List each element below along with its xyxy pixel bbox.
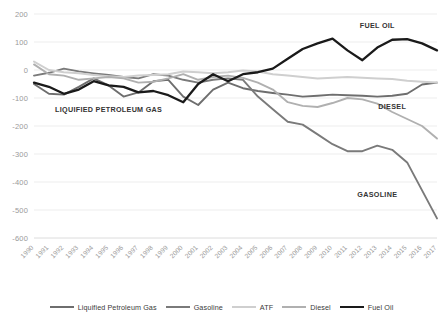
y-tick-label: -400 [12, 178, 28, 187]
legend-label: Diesel [310, 303, 331, 312]
y-tick-label: -100 [12, 94, 28, 103]
legend-color-swatch [282, 306, 306, 308]
legend-item-gasoline[interactable]: Gasoline [166, 303, 223, 312]
x-tick-label: 2007 [273, 244, 289, 260]
y-tick-label: 0 [24, 66, 28, 75]
legend-item-liquified-petroleum-gas[interactable]: Liquified Petroleum Gas [50, 303, 157, 312]
x-tick-label: 1991 [34, 244, 50, 260]
x-tick-label: 2003 [213, 244, 229, 260]
legend-item-atf[interactable]: ATF [232, 303, 273, 312]
x-tick-label: 1999 [153, 244, 169, 260]
x-tick-label: 2014 [377, 244, 393, 260]
x-tick-label: 2011 [333, 244, 348, 259]
x-tick-label: 2010 [318, 244, 334, 260]
x-tick-label: 2000 [168, 244, 184, 260]
x-tick-label: 1996 [109, 244, 125, 260]
legend-color-swatch [166, 306, 190, 308]
legend-label: Fuel Oil [368, 303, 394, 312]
y-tick-label: -500 [12, 206, 28, 215]
annotation-gasoline: GASOLINE [357, 190, 397, 199]
x-tick-label: 2016 [407, 244, 423, 260]
x-tick-label: 2009 [303, 244, 319, 260]
line-chart: 2001000-100-200-300-400-500-600 19901991… [0, 0, 443, 323]
x-tick-label: 1993 [64, 244, 80, 260]
legend-item-diesel[interactable]: Diesel [282, 303, 331, 312]
legend-label: ATF [260, 303, 273, 312]
x-tick-label: 2005 [243, 244, 259, 260]
x-tick-label: 2008 [288, 244, 304, 260]
x-tick-label: 1997 [124, 244, 140, 260]
x-tick-label: 2002 [198, 244, 214, 260]
y-tick-label: -300 [12, 150, 28, 159]
x-tick-label: 1990 [19, 244, 35, 260]
legend-color-swatch [232, 306, 256, 308]
y-axis-tick-labels: 2001000-100-200-300-400-500-600 [12, 10, 28, 243]
chart-legend: Liquified Petroleum GasGasolineATFDiesel… [0, 296, 443, 318]
annotation-fuel-oil: FUEL OIL [360, 21, 395, 30]
legend-color-swatch [340, 306, 364, 308]
x-tick-label: 2001 [183, 244, 199, 260]
legend-color-swatch [50, 306, 74, 308]
legend-label: Liquified Petroleum Gas [78, 303, 157, 312]
x-tick-label: 2012 [347, 244, 363, 260]
plot-area: 2001000-100-200-300-400-500-600 19901991… [0, 0, 443, 292]
chart-canvas: 2001000-100-200-300-400-500-600 19901991… [0, 0, 443, 292]
x-tick-label: 2017 [422, 244, 438, 260]
annotation-liquified-petroleum-gas: LIQUIFIED PETROLEUM GAS [55, 105, 162, 114]
annotation-diesel: DIESEL [378, 102, 406, 111]
y-tick-label: 200 [15, 10, 28, 19]
legend-item-fuel-oil[interactable]: Fuel Oil [340, 303, 394, 312]
legend-label: Gasoline [194, 303, 223, 312]
x-axis-tick-labels: 1990199119921993199419951996199719981999… [19, 244, 438, 260]
y-tick-label: -200 [12, 122, 28, 131]
x-tick-label: 2006 [258, 244, 274, 260]
y-tick-label: -600 [12, 234, 28, 243]
y-tick-label: 100 [15, 38, 28, 47]
x-tick-label: 1992 [49, 244, 65, 260]
x-tick-label: 1995 [94, 244, 110, 260]
x-tick-label: 2004 [228, 244, 244, 260]
x-tick-label: 2013 [362, 244, 378, 260]
series-annotations: FUEL OILDIESELGASOLINELIQUIFIED PETROLEU… [55, 21, 406, 199]
x-tick-label: 2015 [392, 244, 408, 260]
x-tick-label: 1998 [139, 244, 155, 260]
x-tick-label: 1994 [79, 244, 95, 260]
